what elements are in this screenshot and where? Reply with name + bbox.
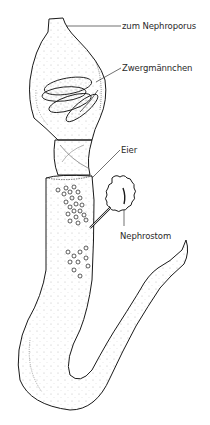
nephridium-body [18, 175, 187, 410]
leader-eier [92, 150, 120, 178]
label-nephrostom: Nephrostom [120, 231, 171, 241]
label-zwergmaennchen: Zwergmännchen [122, 63, 192, 73]
label-nephroporus: zum Nephroporus [122, 21, 196, 31]
nephridium-neck [54, 140, 92, 175]
nephrostome [90, 176, 136, 228]
label-eier: Eier [121, 145, 137, 155]
